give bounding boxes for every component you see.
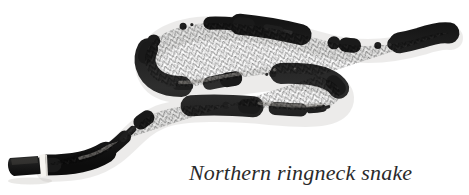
- snake-head: [8, 156, 40, 176]
- illustration-page: Northern ringneck snake: [0, 0, 469, 195]
- head-shadow: [8, 178, 52, 185]
- species-caption: Northern ringneck snake: [189, 158, 451, 190]
